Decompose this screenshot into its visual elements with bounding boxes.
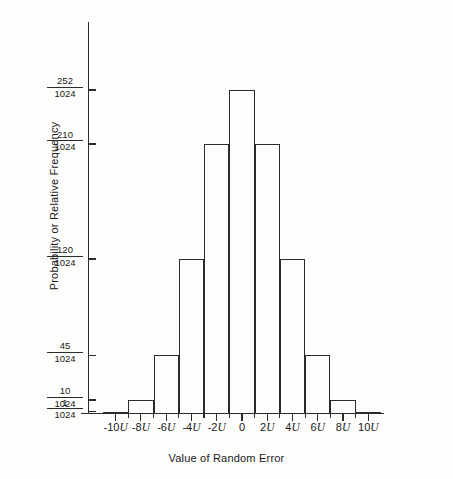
x-axis-title: Value of Random Error — [0, 452, 453, 464]
tick-value: -4 — [182, 421, 192, 433]
x-axis-tick-minor — [330, 414, 331, 418]
histogram-bar — [356, 412, 381, 414]
histogram-bar — [330, 400, 355, 414]
x-axis-tick-major — [292, 414, 293, 421]
tick-value: -6 — [157, 421, 167, 433]
x-axis-tick-minor — [355, 414, 356, 418]
histogram-bar — [204, 144, 229, 414]
x-axis-tick-label: 10U — [348, 421, 388, 433]
x-axis-tick-major — [317, 414, 318, 421]
x-axis-tick-major — [267, 414, 268, 421]
tick-value: -10 — [104, 421, 120, 433]
y-axis-tick — [89, 399, 96, 400]
histogram-bar — [103, 412, 128, 414]
y-axis-tick-label: 451024 — [44, 341, 86, 363]
y-axis-tick — [89, 89, 96, 90]
fraction-denominator: 1024 — [44, 410, 86, 420]
tick-value: -2 — [208, 421, 218, 433]
fraction-denominator: 1024 — [44, 89, 86, 99]
histogram-bar — [255, 144, 280, 414]
fraction-denominator: 1024 — [44, 258, 86, 268]
x-axis-tick-minor — [203, 414, 204, 418]
x-axis-tick-major — [241, 414, 242, 421]
fraction-numerator: 210 — [44, 130, 86, 141]
histogram-bar — [280, 259, 305, 414]
histogram-bar — [229, 90, 254, 414]
histogram-figure: Probability or Relative Frequency 110241… — [0, 0, 453, 479]
x-axis-tick-minor — [279, 414, 280, 418]
tick-unit: U — [370, 421, 378, 433]
y-axis-tick — [89, 411, 96, 412]
y-axis-tick-label: 101024 — [44, 386, 86, 408]
x-axis-tick-major — [368, 414, 369, 421]
fraction-denominator: 1024 — [44, 399, 86, 409]
x-axis-tick-minor — [153, 414, 154, 418]
y-axis-tick — [89, 355, 96, 356]
x-axis-tick-major — [115, 414, 116, 421]
y-axis-tick-label: 2521024 — [44, 76, 86, 98]
fraction-numerator: 252 — [44, 76, 86, 87]
fraction-denominator: 1024 — [44, 354, 86, 364]
y-axis-tick — [89, 143, 96, 144]
y-axis-tick-label: 1201024 — [44, 245, 86, 267]
x-axis-tick-minor — [254, 414, 255, 418]
x-axis-tick-minor — [178, 414, 179, 418]
x-axis-tick-major — [216, 414, 217, 421]
x-axis-tick-major — [140, 414, 141, 421]
fraction-numerator: 120 — [44, 245, 86, 256]
x-axis-tick-minor — [305, 414, 306, 418]
histogram-bar — [154, 355, 179, 414]
fraction-numerator: 10 — [44, 386, 86, 397]
tick-value: -8 — [132, 421, 142, 433]
tick-value: 10 — [358, 421, 370, 433]
tick-value: 0 — [239, 421, 245, 433]
x-axis-tick-minor — [128, 414, 129, 418]
x-axis-tick-major — [342, 414, 343, 421]
fraction-denominator: 1024 — [44, 142, 86, 152]
histogram-bar — [179, 259, 204, 414]
fraction-numerator: 45 — [44, 341, 86, 352]
y-axis-tick-label: 2101024 — [44, 130, 86, 152]
y-axis-title: Probability or Relative Frequency — [48, 66, 60, 346]
y-axis-tick — [89, 258, 96, 259]
histogram-bar — [128, 400, 153, 414]
x-axis-tick-minor — [229, 414, 230, 418]
histogram-bar — [305, 355, 330, 414]
x-axis-tick-major — [166, 414, 167, 421]
x-axis-tick-major — [191, 414, 192, 421]
